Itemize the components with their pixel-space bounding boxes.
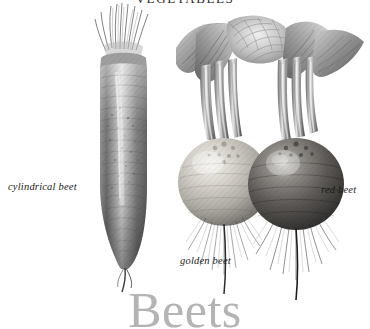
beet-greens-illustration [176,16,364,140]
page-title: Beets [0,285,370,329]
label-red-beet: red beet [321,184,356,195]
cylindrical-beet-illustration [95,3,148,292]
label-cylindrical-beet: cylindrical beet [8,181,77,192]
illustration-plate: VEGETABLES [0,0,370,329]
beets-illustration [0,0,370,329]
red-beet-illustration [248,138,344,300]
label-golden-beet: golden beet [180,255,231,266]
